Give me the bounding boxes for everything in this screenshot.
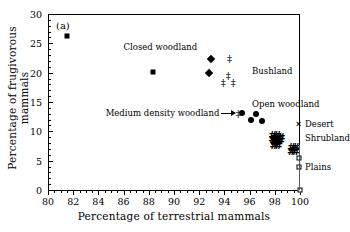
data-point-closed-woodland xyxy=(64,34,69,39)
y-tick xyxy=(48,73,53,74)
x-tick xyxy=(250,190,251,195)
data-point-closed-woodland xyxy=(150,70,155,75)
x-tick xyxy=(73,190,74,195)
data-point-open-woodland xyxy=(239,110,245,116)
data-point-shrubland: # xyxy=(289,143,298,154)
x-tick xyxy=(168,190,169,193)
data-point-shrubland: # xyxy=(271,138,280,149)
annotation-bushland: Bushland xyxy=(252,66,292,76)
x-tick xyxy=(287,190,288,193)
y-tick xyxy=(48,184,51,185)
y-tick xyxy=(48,149,51,150)
x-tick xyxy=(124,190,125,195)
x-tick xyxy=(54,190,55,193)
y-tick xyxy=(48,37,51,38)
x-tick xyxy=(212,190,213,193)
y-tick xyxy=(48,167,51,168)
y-tick xyxy=(48,67,51,68)
y-tick xyxy=(48,96,51,97)
y-tick xyxy=(48,90,51,91)
x-tick xyxy=(187,190,188,193)
x-tick xyxy=(199,190,200,195)
y-tick xyxy=(48,26,51,27)
x-tick xyxy=(92,190,93,193)
annotation-shrubland: Shrubland xyxy=(305,133,350,143)
data-point-open-woodland xyxy=(259,118,265,124)
x-tick xyxy=(237,190,238,193)
data-point-bushland: ‡ xyxy=(227,54,232,64)
x-tick xyxy=(111,190,112,193)
y-tick xyxy=(48,190,53,191)
x-tick xyxy=(117,190,118,193)
x-tick xyxy=(224,190,225,195)
y-tick xyxy=(48,125,51,126)
x-tick xyxy=(269,190,270,193)
y-tick xyxy=(48,79,51,80)
y-tick xyxy=(48,49,51,50)
y-tick xyxy=(48,55,51,56)
y-tick xyxy=(48,32,51,33)
y-tick xyxy=(48,178,51,179)
x-tick xyxy=(231,190,232,193)
x-tick xyxy=(218,190,219,193)
annotation-plains: Plains xyxy=(305,162,331,172)
y-tick xyxy=(48,84,51,85)
plains-connector-line xyxy=(299,145,300,190)
x-tick xyxy=(105,190,106,193)
x-tick xyxy=(243,190,244,193)
y-tick xyxy=(48,20,51,21)
x-tick xyxy=(206,190,207,193)
annotation-closed-woodland: Closed woodland xyxy=(124,42,198,52)
y-tick xyxy=(48,137,51,138)
x-tick xyxy=(294,190,295,193)
y-tick xyxy=(48,131,53,132)
annotation-medium-density-woodland: Medium density woodland xyxy=(106,108,220,118)
x-tick xyxy=(180,190,181,193)
x-tick xyxy=(130,190,131,193)
x-axis-title: Percentage of terrestrial mammals xyxy=(48,210,300,222)
y-tick xyxy=(48,114,51,115)
x-tick xyxy=(262,190,263,193)
x-tick xyxy=(67,190,68,193)
x-tick xyxy=(281,190,282,193)
y-tick xyxy=(48,172,51,173)
x-tick xyxy=(61,190,62,193)
x-tick xyxy=(155,190,156,193)
y-tick xyxy=(48,161,53,162)
y-tick xyxy=(48,14,53,15)
x-tick xyxy=(275,190,276,195)
x-tick xyxy=(80,190,81,193)
x-tick xyxy=(143,190,144,193)
x-tick-label: 100 xyxy=(285,196,315,207)
data-point-bushland: ‡ xyxy=(221,78,226,88)
x-tick xyxy=(86,190,87,193)
y-tick xyxy=(48,120,51,121)
annotation-open-woodland: Open woodland xyxy=(252,99,319,109)
y-tick xyxy=(48,155,51,156)
y-tick xyxy=(48,143,51,144)
x-tick xyxy=(136,190,137,193)
y-tick xyxy=(48,102,53,103)
x-tick xyxy=(256,190,257,193)
y-tick xyxy=(48,108,51,109)
x-tick xyxy=(149,190,150,195)
data-point-desert: × xyxy=(296,119,301,128)
data-point-open-woodland xyxy=(253,111,259,117)
annotation-desert: Desert xyxy=(305,119,334,129)
y-tick xyxy=(48,61,51,62)
annotation-leader-line xyxy=(221,113,231,114)
data-point-open-woodland xyxy=(248,117,254,123)
x-tick xyxy=(174,190,175,195)
data-point-bushland: ‡ xyxy=(231,78,236,88)
x-tick xyxy=(98,190,99,195)
y-tick xyxy=(48,43,53,44)
annotation-arrow-head xyxy=(231,110,236,116)
panel-label: (a) xyxy=(56,20,70,31)
y-axis-title: Percentage of frugivorous mammals xyxy=(6,8,30,188)
x-tick xyxy=(161,190,162,193)
x-tick xyxy=(193,190,194,193)
